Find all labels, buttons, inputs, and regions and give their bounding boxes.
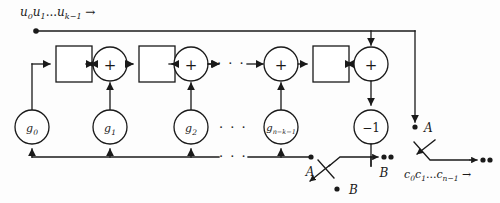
switch-2-blade	[417, 140, 435, 154]
chain-ellipsis-top: · · ·	[217, 56, 245, 71]
b-contact-dot-2	[388, 154, 393, 159]
tap-multipliers: g0 g1 g2 gn−k−1 −1	[15, 110, 388, 144]
adder-3-plus-symbol: +	[275, 56, 288, 74]
label-switch-a-left: A	[305, 165, 315, 179]
switch-1-common-wire	[329, 157, 371, 166]
output-switch-section	[310, 140, 493, 192]
output-label: c0c1...cn−1 →	[404, 168, 471, 183]
b-contact-dot-1	[381, 154, 386, 159]
output-contact-dot-2	[487, 157, 492, 162]
delay-element-3	[313, 46, 349, 82]
lfsr-encoder-diagram: + + · · · +	[0, 0, 500, 203]
switch-a-lower-contact-dot	[308, 154, 313, 159]
adder-4-plus-symbol: +	[365, 56, 378, 74]
switch-1-pivot-cross	[318, 160, 334, 178]
feedback-rail-group	[32, 149, 314, 160]
diagram-canvas: + + · · · +	[0, 0, 500, 203]
inverter-label: −1	[362, 121, 380, 135]
adder-2-plus-symbol: +	[185, 56, 198, 74]
feedback-row-ellipsis: · · ·	[219, 149, 247, 164]
input-label: u0u1...uk−1 →	[20, 5, 95, 21]
switch-a-upper-contact-dot	[412, 124, 417, 129]
adder-1-plus-symbol: +	[104, 56, 117, 74]
output-contact-dot-1	[480, 157, 485, 162]
switch-2-output-wire	[414, 142, 470, 160]
diagram-text-labels: u0u1...uk−1 → c0c1...cn−1 → A B B A	[20, 5, 471, 197]
b-open-contact-dot	[334, 186, 339, 191]
label-switch-b-right: B	[379, 166, 389, 180]
label-switch-b-open: B	[348, 183, 358, 197]
label-switch-a-right: A	[423, 121, 433, 135]
tap-row-ellipsis: · · ·	[219, 120, 247, 135]
